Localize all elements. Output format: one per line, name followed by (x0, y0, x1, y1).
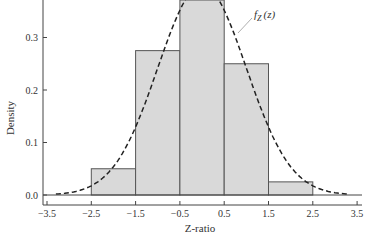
histogram-bar (269, 182, 313, 195)
x-axis-ticks: −3.5−2.5−1.5−0.50.51.52.53.5 (38, 201, 363, 219)
histogram-bar (224, 64, 268, 195)
x-tick-label: −1.5 (127, 208, 145, 219)
y-tick-label: 0.1 (26, 137, 39, 148)
histogram-chart: 0.00.10.20.3 −3.5−2.5−1.5−0.50.51.52.53.… (0, 0, 371, 242)
x-tick-label: 3.5 (351, 208, 364, 219)
y-tick-label: 0.0 (26, 190, 39, 201)
curve-annotation-leader (238, 18, 252, 33)
y-tick-label: 0.3 (26, 32, 39, 43)
x-axis-label: Z-ratio (185, 222, 216, 234)
y-axis-ticks: 0.00.10.20.3 (26, 32, 48, 201)
y-tick-label: 0.2 (26, 85, 39, 96)
curve-annotation-label: fZ(z) (254, 8, 275, 23)
histogram-bars (91, 0, 312, 195)
histogram-bar (136, 51, 180, 195)
x-tick-label: −2.5 (82, 208, 100, 219)
histogram-bar (180, 0, 224, 195)
y-axis-label: Density (4, 100, 16, 135)
x-tick-label: 1.5 (262, 208, 275, 219)
x-tick-label: −3.5 (38, 208, 56, 219)
x-tick-label: 0.5 (218, 208, 231, 219)
x-tick-label: −0.5 (171, 208, 189, 219)
x-tick-label: 2.5 (307, 208, 320, 219)
